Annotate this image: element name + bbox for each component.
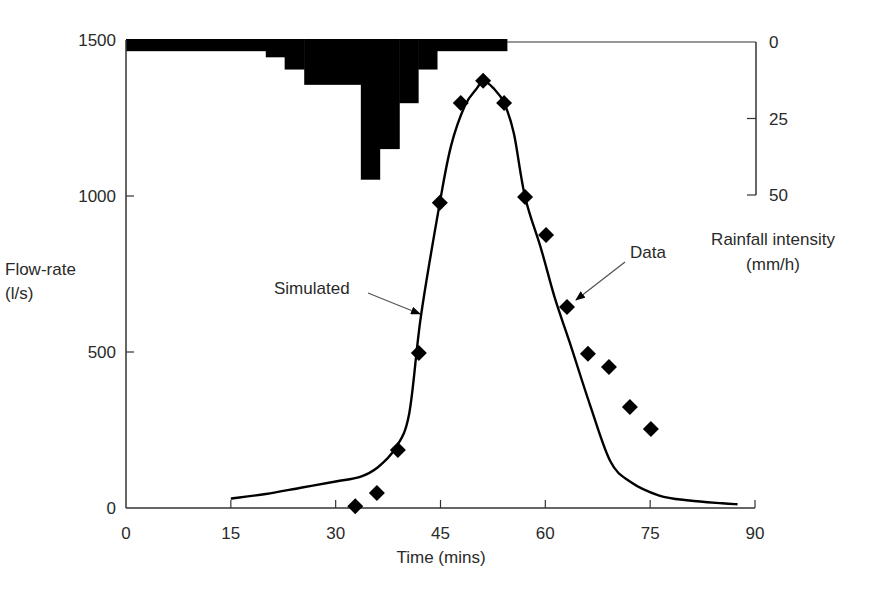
chart-canvas: 015304560759005001000150002550 Time (min… [0,0,874,595]
rainfall-bar [285,39,305,70]
rainfall-bar [418,39,437,70]
data-annotation: Data [630,243,666,262]
y-axis-label-line2: (l/s) [5,284,33,303]
x-tick-label: 90 [746,524,765,543]
data-point-diamond [411,345,427,361]
rainfall-bar [399,39,418,103]
x-tick-label: 0 [121,524,130,543]
data-point-diamond [453,95,469,111]
rainfall-bar [437,39,507,51]
data-point-diamond [580,346,596,362]
data-point-diamond [496,95,512,111]
data-point-diamond [369,485,385,501]
y-tick-label: 1500 [78,31,116,50]
rainfall-bars [126,39,507,180]
data-point-diamond [559,299,575,315]
rainfall-bar [361,39,380,180]
data-point-diamond [347,498,363,514]
y2-tick-label: 0 [769,33,778,52]
y2-tick-label: 50 [769,186,788,205]
data-point-diamond [538,227,554,243]
rainfall-bar [126,39,266,51]
x-tick-label: 30 [326,524,345,543]
data-point-diamond [390,442,406,458]
hydrograph-chart: 015304560759005001000150002550 Time (min… [0,0,874,595]
data-point-diamond [601,359,617,375]
simulated-arrow [368,293,420,314]
axis-labels: Time (mins) Flow-rate (l/s) Rainfall int… [5,230,835,567]
rainfall-bar [266,39,285,57]
rainfall-bar [304,39,361,85]
annotations: Simulated Data [274,243,666,314]
y2-axis-label-line2: (mm/h) [746,255,800,274]
y-axis-label-line1: Flow-rate [5,260,76,279]
data-point-diamond [622,399,638,415]
x-axis-label: Time (mins) [396,548,485,567]
data-point-diamond [643,421,659,437]
y-tick-label: 0 [107,499,116,518]
x-tick-label: 60 [536,524,555,543]
simulated-annotation: Simulated [274,279,350,298]
y-tick-label: 500 [88,343,116,362]
axes: 015304560759005001000150002550 [78,31,788,543]
x-tick-label: 75 [641,524,660,543]
rainfall-bar [380,39,400,149]
x-tick-label: 45 [431,524,450,543]
y2-axis-label-line1: Rainfall intensity [711,230,835,249]
y2-tick-label: 25 [769,110,788,129]
x-tick-label: 15 [221,524,240,543]
data-arrow [576,262,625,300]
data-point-diamond [517,189,533,205]
y-tick-label: 1000 [78,187,116,206]
data-point-diamond [432,195,448,211]
